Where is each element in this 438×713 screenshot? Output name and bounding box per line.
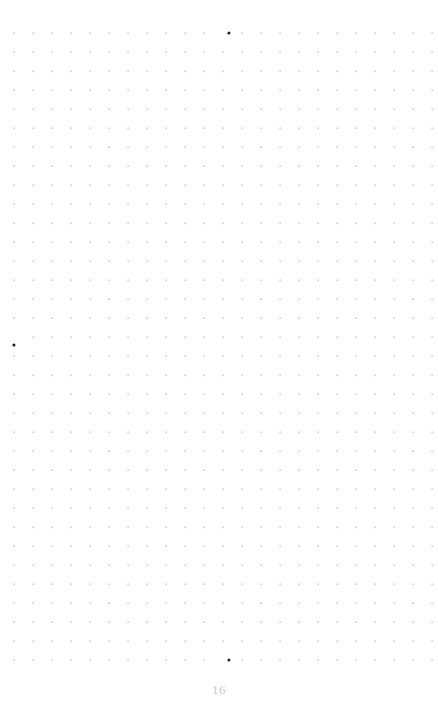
grid-dot [241,279,243,281]
grid-dot [89,583,91,585]
grid-dot [241,184,243,186]
grid-dot [184,279,186,281]
grid-dot [51,317,53,319]
grid-dot [184,450,186,452]
grid-dot [51,469,53,471]
grid-dot [13,374,15,376]
grid-dot [127,222,129,224]
grid-dot [317,640,319,642]
grid-dot [431,32,433,34]
grid-dot [184,507,186,509]
grid-dot [260,317,262,319]
grid-dot [317,469,319,471]
grid-dot [184,165,186,167]
grid-dot [431,260,433,262]
grid-dot [89,488,91,490]
grid-dot [298,602,300,604]
grid-dot [108,564,110,566]
grid-dot [184,355,186,357]
grid-dot [108,317,110,319]
grid-dot [393,127,395,129]
grid-dot [108,260,110,262]
grid-dot [108,355,110,357]
grid-dot [355,431,357,433]
grid-dot [70,165,72,167]
grid-dot [203,146,205,148]
grid-dot [279,355,281,357]
grid-dot [298,317,300,319]
grid-dot [431,507,433,509]
grid-dot [374,412,376,414]
grid-dot [298,450,300,452]
grid-dot [146,279,148,281]
grid-dot [393,469,395,471]
grid-dot [32,412,34,414]
grid-dot [127,146,129,148]
grid-dot [260,89,262,91]
grid-dot [260,583,262,585]
grid-dot [374,222,376,224]
grid-dot [108,203,110,205]
grid-dot [279,526,281,528]
grid-dot [89,279,91,281]
grid-dot [355,488,357,490]
grid-dot [355,298,357,300]
grid-dot [336,336,338,338]
grid-dot [241,317,243,319]
grid-dot [165,412,167,414]
grid-dot [374,545,376,547]
grid-dot [146,469,148,471]
grid-dot [89,336,91,338]
grid-dot [260,469,262,471]
grid-dot [127,602,129,604]
grid-dot [89,32,91,34]
grid-dot [51,241,53,243]
grid-dot [317,564,319,566]
grid-dot [184,32,186,34]
grid-dot [13,146,15,148]
grid-dot [412,507,414,509]
grid-dot [222,412,224,414]
grid-dot [89,355,91,357]
grid-dot [203,602,205,604]
grid-dot [279,184,281,186]
grid-dot [412,374,414,376]
grid-dot [355,336,357,338]
grid-dot [32,602,34,604]
grid-dot [355,602,357,604]
grid-dot [393,545,395,547]
grid-dot [431,203,433,205]
grid-dot [260,640,262,642]
grid-dot [146,450,148,452]
grid-dot [13,583,15,585]
grid-dot [431,298,433,300]
grid-dot [165,89,167,91]
grid-dot [146,222,148,224]
grid-dot [32,317,34,319]
grid-dot [431,241,433,243]
grid-dot [146,317,148,319]
grid-dot [184,260,186,262]
grid-dot [317,621,319,623]
grid-dot [127,640,129,642]
grid-dot [336,602,338,604]
grid-dot [241,298,243,300]
grid-dot [412,108,414,110]
grid-dot [203,526,205,528]
grid-dot [89,621,91,623]
grid-dot [203,184,205,186]
grid-dot [412,469,414,471]
grid-dot [298,374,300,376]
grid-dot [89,431,91,433]
grid-dot [70,602,72,604]
grid-dot [393,602,395,604]
grid-dot [184,412,186,414]
grid-dot [165,526,167,528]
grid-dot [279,165,281,167]
grid-dot [279,488,281,490]
grid-dot [279,336,281,338]
grid-dot [127,298,129,300]
grid-dot [89,203,91,205]
grid-dot [127,469,129,471]
grid-dot [203,640,205,642]
